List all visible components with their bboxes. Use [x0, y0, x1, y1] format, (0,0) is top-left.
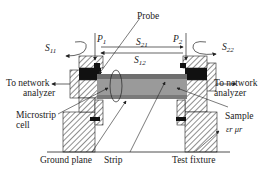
s11-label: S11: [45, 43, 56, 56]
permittivity-permeability-label: εr μr: [226, 124, 242, 134]
probe-label: Probe: [137, 11, 159, 21]
test-fixture-label: Test fixture: [172, 155, 215, 165]
microstrip-line: [97, 70, 187, 102]
microstrip-cell-line2: cell: [16, 120, 30, 130]
port2-label: P2: [173, 34, 182, 47]
to-network-right-line1: To network: [214, 78, 257, 88]
microstrip-cell-line1: Microstrip: [16, 110, 56, 120]
s12-label: S12: [134, 55, 146, 68]
port1-label: P1: [97, 34, 106, 47]
sample-label: Sample: [225, 111, 254, 121]
right-fixture: [176, 56, 217, 152]
to-network-left-line2: analyzer: [23, 88, 55, 98]
s21-label: S21: [136, 37, 148, 50]
to-network-left-line1: To network: [6, 78, 49, 88]
strip-label: Strip: [104, 155, 122, 165]
left-fixture: [63, 56, 103, 152]
to-network-right-line2: analyzer: [214, 88, 246, 98]
s22-label: S22: [222, 42, 234, 55]
ground-plane-label: Ground plane: [40, 155, 92, 165]
